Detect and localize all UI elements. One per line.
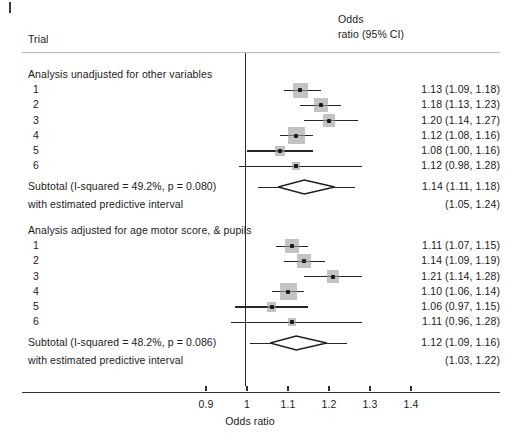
point-estimate-marker [270,305,274,309]
null-reference-line [245,53,246,386]
point-estimate-marker [298,88,302,92]
effect-estimate-1-3: 1.10 (1.06, 1.14) [340,285,500,297]
subtotal-diamond [270,335,327,351]
header-divider [22,52,500,53]
corner-tick-mark [9,2,11,13]
trial-label-1-5: 6 [33,315,39,327]
point-estimate-marker [286,290,290,294]
group-header-0: Analysis unadjusted for other variables [28,68,212,80]
trial-label-1-2: 3 [33,270,39,282]
trial-label-0-2: 3 [33,114,39,126]
effect-estimate-1-0: 1.11 (1.07, 1.15) [340,239,500,251]
point-estimate-marker [319,103,323,107]
point-estimate-marker [327,119,331,123]
predictive-interval-estimate-1: (1.03, 1.22) [340,354,500,366]
column-header-odds: Odds [338,13,364,25]
forest-plot: Odds ratio (95% CI) Trial Analysis unadj… [0,0,518,443]
effect-estimate-0-0: 1.13 (1.09, 1.18) [340,83,500,95]
trial-label-1-1: 2 [33,254,39,266]
trial-label-1-3: 4 [33,285,39,297]
effect-estimate-0-5: 1.12 (0.98, 1.28) [340,159,500,171]
column-header-ratio-ci: ratio (95% CI) [338,28,404,40]
trial-label-0-3: 4 [33,129,39,141]
point-estimate-marker [294,164,298,168]
x-axis-tick-1.3 [369,386,370,391]
column-header-trial: Trial [28,33,49,45]
predictive-interval-label-1: with estimated predictive interval [28,354,183,366]
x-axis-tick-label-1.2: 1.2 [309,398,349,410]
subtotal-label-1: Subtotal (I-squared = 48.2%, p = 0.086) [28,336,216,348]
trial-label-0-4: 5 [33,144,39,156]
effect-estimate-0-3: 1.12 (1.08, 1.16) [340,129,500,141]
x-axis-tick-label-1.4: 1.4 [391,398,431,410]
trial-label-0-0: 1 [33,83,39,95]
effect-estimate-0-4: 1.08 (1.00, 1.16) [340,144,500,156]
x-axis-tick-label-1.1: 1.1 [268,398,308,410]
effect-estimate-0-2: 1.20 (1.14, 1.27) [340,114,500,126]
trial-label-0-1: 2 [33,98,39,110]
x-axis-tick-1.1 [287,386,288,391]
subtotal-label-0: Subtotal (I-squared = 49.2%, p = 0.080) [28,180,216,192]
x-axis-title: Odds ratio [205,415,295,427]
x-axis-tick-label-1: 1 [227,398,267,410]
x-axis-line [22,392,500,393]
subtotal-estimate-0: 1.14 (1.11, 1.18) [340,180,500,192]
effect-estimate-0-1: 1.18 (1.13, 1.23) [340,98,500,110]
point-estimate-marker [290,320,294,324]
point-estimate-marker [290,244,294,248]
point-estimate-marker [278,149,282,153]
predictive-interval-label-0: with estimated predictive interval [28,198,183,210]
subtotal-diamond [278,179,335,195]
predictive-interval-estimate-0: (1.05, 1.24) [340,198,500,210]
trial-label-1-0: 1 [33,239,39,251]
point-estimate-marker [331,275,335,279]
effect-estimate-1-2: 1.21 (1.14, 1.28) [340,270,500,282]
effect-estimate-1-4: 1.06 (0.97, 1.15) [340,300,500,312]
x-axis-tick-0.9 [205,386,206,391]
forest-row-marker [0,0,518,1]
x-axis-tick-label-1.3: 1.3 [350,398,390,410]
group-header-1: Analysis adjusted for age motor score, &… [28,224,252,236]
x-axis-tick-1 [246,386,247,391]
x-axis-tick-1.4 [410,386,411,391]
x-axis-tick-label-0.9: 0.9 [186,398,226,410]
trial-label-1-4: 5 [33,300,39,312]
effect-estimate-1-5: 1.11 (0.96, 1.28) [340,315,500,327]
trial-label-0-5: 6 [33,159,39,171]
point-estimate-marker [294,134,298,138]
x-axis-tick-1.2 [328,386,329,391]
subtotal-estimate-1: 1.12 (1.09, 1.16) [340,336,500,348]
effect-estimate-1-1: 1.14 (1.09, 1.19) [340,254,500,266]
